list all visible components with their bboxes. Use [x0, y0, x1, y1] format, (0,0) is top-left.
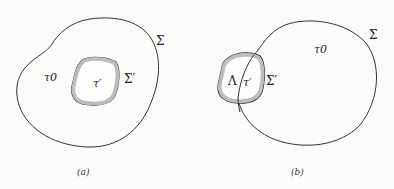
panel-b-caption: (b) — [291, 167, 304, 177]
panel-a-sigma-prime-label: Σ′ — [124, 73, 135, 85]
panel-b-sigma-label: Σ — [369, 29, 377, 41]
panel-a-caption: (a) — [77, 167, 89, 177]
panel-a-tau0-label: τ0 — [44, 72, 57, 83]
panel-b-lambda-label: Λ — [228, 75, 237, 87]
diagram-canvas — [0, 0, 394, 189]
panel-b-tau0-label: τ0 — [314, 44, 327, 55]
panel-a-sigma-label: Σ — [156, 35, 164, 47]
panel-b-tau-prime-label: τ′ — [243, 77, 252, 88]
panel-b-sigma-prime-label: Σ′ — [266, 75, 277, 87]
panel-a-tau-prime-label: τ′ — [93, 78, 102, 89]
